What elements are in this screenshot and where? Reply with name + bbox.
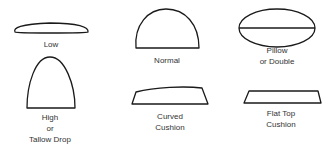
- low-shape: [15, 23, 88, 33]
- label-line: or: [29, 123, 71, 134]
- label-line: High: [29, 112, 71, 123]
- label-line: Low: [44, 40, 59, 49]
- label-line: Cushion: [266, 119, 295, 130]
- label-pillow: Pillow or Double: [260, 45, 295, 67]
- normal-shape: [136, 9, 199, 48]
- label-low: Low: [44, 39, 59, 50]
- label-line: Curved: [155, 111, 184, 122]
- label-curved-cushion: Curved Cushion: [155, 111, 184, 133]
- label-line: Cushion: [155, 122, 184, 133]
- label-line: Pillow: [260, 45, 295, 56]
- high-shape: [27, 57, 75, 108]
- label-normal: Normal: [154, 55, 180, 66]
- label-line: or Double: [260, 56, 295, 67]
- curved-cushion-shape: [132, 87, 208, 104]
- label-line: Tallow Drop: [29, 134, 71, 145]
- label-line: Normal: [154, 56, 180, 65]
- label-line: Flat Top: [266, 108, 295, 119]
- label-flat-top-cushion: Flat Top Cushion: [266, 108, 295, 130]
- flat-top-cushion-shape: [244, 91, 321, 103]
- label-high: High or Tallow Drop: [29, 112, 71, 145]
